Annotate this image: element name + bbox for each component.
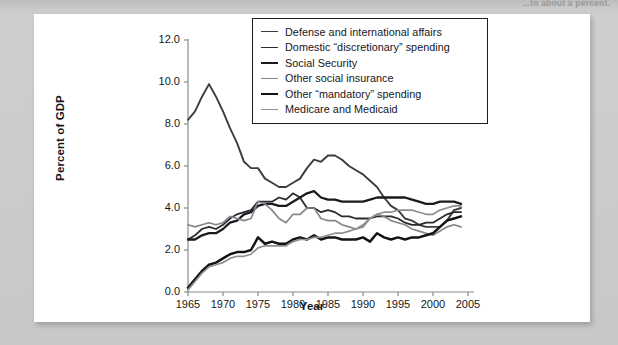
legend-item: Medicare and Medicaid [261, 102, 479, 118]
legend-label: Domestic “discretionary” spending [285, 41, 450, 53]
legend-item: Other “mandatory” spending [261, 86, 479, 102]
legend-item: Other social insurance [261, 71, 479, 87]
legend-swatch-icon [261, 78, 278, 79]
legend-item: Defense and international affairs [261, 24, 479, 40]
legend-label: Medicare and Medicaid [285, 103, 398, 115]
legend-item: Social Security [261, 55, 479, 71]
figure-card: Percent of GDP Year 0.02.04.06.08.010.01… [34, 14, 590, 322]
line-chart: Percent of GDP Year 0.02.04.06.08.010.01… [34, 14, 590, 322]
legend-item: Domestic “discretionary” spending [261, 40, 479, 56]
legend-label: Other “mandatory” spending [285, 88, 421, 100]
legend-swatch-icon [261, 109, 278, 110]
legend-label: Social Security [285, 57, 357, 69]
legend-label: Other social insurance [285, 72, 394, 84]
legend-swatch-icon [261, 31, 278, 32]
chart-legend: Defense and international affairsDomesti… [252, 18, 488, 124]
legend-swatch-icon [261, 47, 278, 48]
legend-label: Defense and international affairs [285, 26, 442, 38]
legend-swatch-icon [261, 93, 278, 95]
legend-swatch-icon [261, 62, 278, 64]
page-background: ...to about a percent. Percent of GDP Ye… [0, 0, 618, 345]
clipped-body-text: ...to about a percent. [430, 0, 610, 10]
series-line-4 [188, 216, 461, 287]
